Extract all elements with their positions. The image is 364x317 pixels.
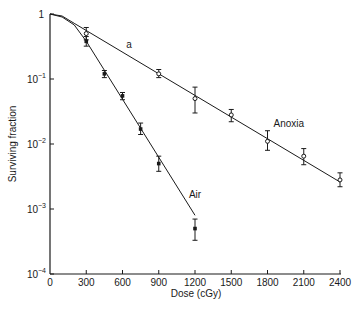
y-tick-label: 10−3: [27, 202, 46, 215]
y-tick-label: 10−2: [27, 137, 46, 150]
x-axis-title: Dose (cGy): [171, 288, 222, 299]
data-points: [84, 27, 343, 240]
x-tick-label: 2400: [329, 277, 352, 288]
x-tick-label: 300: [78, 277, 95, 288]
y-tick-label: 10−4: [27, 267, 46, 280]
data-point-anoxia: [156, 70, 161, 78]
x-axis-ticks: 030060090012001500180021002400: [47, 270, 351, 288]
x-tick-label: 1200: [184, 277, 207, 288]
data-point-air: [102, 71, 107, 78]
data-point-anoxia: [338, 173, 343, 187]
data-point-anoxia: [229, 109, 234, 121]
x-tick-label: 900: [150, 277, 167, 288]
x-tick-label: 2100: [293, 277, 316, 288]
data-point-air: [120, 92, 125, 99]
x-tick-label: 1500: [220, 277, 243, 288]
series-labels: AnoxiaAira: [126, 39, 304, 200]
y-tick-label: 1: [38, 9, 44, 20]
fit-lines: [50, 14, 340, 215]
x-tick-label: 0: [47, 277, 53, 288]
data-point-anoxia: [193, 87, 198, 113]
data-point-anoxia: [301, 149, 306, 165]
y-tick-label: 10−1: [27, 72, 46, 85]
y-axis-title: Surviving fraction: [7, 106, 18, 183]
series-label-air: Air: [189, 189, 202, 200]
series-label-anoxia: Anoxia: [274, 118, 305, 129]
fit-line-air: [50, 14, 195, 215]
survival-curve-chart: 030060090012001500180021002400 110−110−2…: [0, 0, 364, 317]
data-point-anoxia: [265, 131, 270, 151]
data-point-air: [193, 219, 198, 240]
data-point-air: [156, 156, 161, 171]
x-tick-label: 1800: [256, 277, 279, 288]
annotation: a: [126, 39, 132, 50]
x-tick-label: 600: [114, 277, 131, 288]
